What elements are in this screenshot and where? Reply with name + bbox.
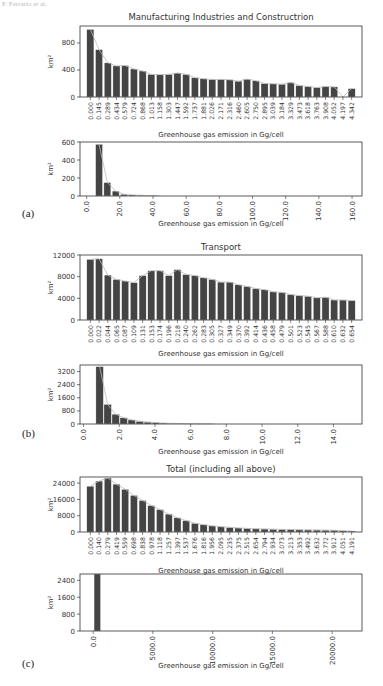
bar: [183, 74, 190, 97]
bar: [113, 279, 120, 320]
bar: [95, 50, 102, 97]
y-tick-label: 4000: [57, 295, 75, 303]
y-tick-label: 800: [62, 39, 75, 47]
x-tick-label: 0.065: [113, 325, 120, 343]
bar: [252, 289, 259, 320]
y-tick-label: 8000: [57, 512, 75, 520]
x-tick-label: 0.501: [287, 325, 294, 343]
x-tick-label: 0.868: [139, 102, 146, 120]
x-tick-label: 0.588: [322, 325, 329, 343]
x-tick-label: 100.0: [249, 201, 257, 221]
bar: [174, 518, 181, 532]
x-tick-label: 15000.0: [269, 636, 277, 665]
bar: [348, 89, 355, 97]
bar: [287, 82, 294, 97]
x-axis-label: Greenhouse gas emission in Gg/cell: [158, 220, 283, 228]
bar: [217, 282, 224, 320]
x-tick-label: 0.349: [226, 325, 233, 343]
x-tick-label: 2.895: [261, 102, 268, 120]
x-tick-label: 6.0: [187, 429, 195, 440]
x-tick-label: 1.816: [200, 537, 207, 555]
bar: [331, 87, 338, 97]
y-tick-label: 3200: [57, 368, 75, 376]
bar: [94, 574, 101, 631]
x-tick-label: 2.0: [116, 429, 124, 440]
y-axis-label: km²: [47, 497, 55, 511]
x-tick-label: 120.0: [282, 201, 290, 221]
y-tick-label: 16000: [53, 496, 75, 504]
bar: [104, 275, 111, 320]
bar: [174, 270, 181, 320]
bar: [165, 276, 172, 320]
bar: [252, 529, 259, 532]
x-tick-label: 0.145: [95, 102, 102, 120]
chart-title: Total (including all above): [165, 464, 275, 474]
x-tick-label: 0.087: [121, 325, 128, 343]
bar: [130, 283, 137, 320]
bar: [87, 29, 94, 97]
y-tick-label: 0: [71, 193, 75, 201]
x-tick-label: 1.447: [174, 102, 181, 120]
bar: [305, 87, 312, 97]
x-tick-label: 2.235: [226, 537, 233, 555]
bar: [148, 271, 155, 320]
y-tick-label: 1600: [57, 394, 75, 402]
bar: [95, 259, 102, 320]
bar: [209, 526, 216, 532]
x-axis-label: Greenhouse gas emission in Gg/cell: [158, 350, 283, 358]
x-tick-label: 3.353: [296, 537, 303, 555]
x-tick-label: 2.095: [217, 537, 224, 555]
x-tick-label: 0.978: [148, 537, 155, 555]
x-tick-label: 2.316: [226, 102, 233, 120]
y-tick-label: 200: [62, 175, 75, 183]
x-tick-label: 0.327: [217, 325, 224, 343]
bar: [226, 282, 233, 320]
x-tick-label: 2.794: [261, 537, 268, 555]
chart-total-full-range: 080016002400km²0.05000.010000.015000.020…: [0, 570, 383, 686]
bar: [200, 525, 207, 532]
bar: [139, 276, 146, 320]
x-tick-label: 1.592: [182, 102, 189, 120]
x-tick-label: 2.750: [252, 102, 259, 120]
y-axis-label: km²: [47, 280, 55, 294]
x-tick-label: 4.051: [339, 537, 346, 555]
x-tick-label: 3.632: [313, 537, 320, 555]
x-tick-label: 0.240: [182, 325, 189, 343]
y-tick-label: 0: [71, 529, 75, 537]
x-tick-label: 0.0: [83, 201, 91, 212]
x-tick-label: 0.283: [200, 325, 207, 343]
x-tick-label: 20.0: [116, 201, 124, 217]
bar: [313, 88, 320, 97]
x-tick-label: 8.0: [223, 429, 231, 440]
bar: [200, 278, 207, 320]
y-tick-label: 0: [71, 317, 75, 325]
bar: [261, 290, 268, 320]
x-tick-label: 0.140: [95, 537, 102, 555]
bar: [156, 271, 163, 320]
x-tick-label: 0.305: [208, 325, 215, 343]
bar: [296, 86, 303, 97]
x-tick-label: 14.0: [330, 429, 338, 445]
y-tick-label: 800: [62, 611, 75, 619]
x-tick-label: 0.579: [121, 102, 128, 120]
bar: [122, 489, 129, 532]
bar: [87, 486, 94, 532]
x-tick-label: 0.044: [104, 325, 111, 343]
x-tick-label: 0.0: [80, 429, 88, 440]
bar: [244, 528, 251, 532]
x-tick-label: 12.0: [294, 429, 302, 445]
bar: [191, 276, 198, 320]
x-tick-label: 20000.0: [329, 636, 337, 665]
x-tick-label: 0.458: [269, 325, 276, 343]
y-tick-label: 2400: [57, 577, 75, 585]
x-tick-label: 4.191: [348, 537, 355, 555]
y-tick-label: 0: [71, 628, 75, 636]
bar: [270, 84, 277, 97]
x-tick-label: 0.479: [278, 325, 285, 343]
x-tick-label: 3.329: [287, 102, 294, 120]
bar: [339, 300, 346, 320]
x-tick-label: 2.026: [208, 102, 215, 120]
y-tick-label: 24000: [53, 480, 75, 488]
x-tick-label: 3.073: [278, 537, 285, 555]
bar: [261, 83, 268, 97]
